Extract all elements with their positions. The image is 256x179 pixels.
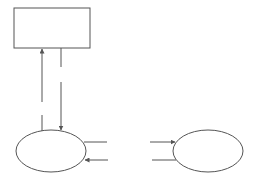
left-ellipse-node xyxy=(16,130,86,172)
process-rectangle xyxy=(14,8,90,48)
diagram-canvas xyxy=(0,0,256,179)
right-ellipse-node xyxy=(173,130,243,172)
